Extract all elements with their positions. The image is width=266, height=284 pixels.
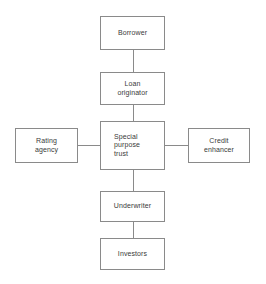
node-investors[interactable]: Investors: [100, 238, 165, 270]
connector-underwriter-to-investors: [133, 222, 134, 238]
node-loan-originator-label: Loan originator: [101, 80, 164, 97]
node-investors-label: Investors: [101, 250, 164, 259]
connector-loan-originator-to-special-purpose-trust: [133, 105, 134, 122]
node-underwriter[interactable]: Underwriter: [100, 191, 165, 222]
node-rating-agency-label: Rating agency: [16, 137, 77, 154]
diagram-canvas: Borrower Loan originator Rating agency S…: [0, 0, 266, 284]
connector-rating-agency-to-special-purpose-trust: [78, 145, 101, 146]
node-rating-agency[interactable]: Rating agency: [15, 128, 78, 163]
connector-special-purpose-trust-to-credit-enhancer: [165, 145, 188, 146]
node-credit-enhancer[interactable]: Credit enhancer: [188, 128, 250, 163]
node-loan-originator[interactable]: Loan originator: [100, 72, 165, 105]
connector-borrower-to-loan-originator: [133, 50, 134, 72]
connector-special-purpose-trust-to-underwriter: [133, 170, 134, 192]
node-borrower-label: Borrower: [101, 29, 164, 38]
node-special-purpose-trust[interactable]: Special purpose trust: [100, 121, 165, 170]
node-credit-enhancer-label: Credit enhancer: [189, 137, 249, 154]
node-underwriter-label: Underwriter: [101, 202, 164, 211]
node-borrower[interactable]: Borrower: [100, 16, 165, 50]
node-special-purpose-trust-label: Special purpose trust: [101, 133, 164, 159]
